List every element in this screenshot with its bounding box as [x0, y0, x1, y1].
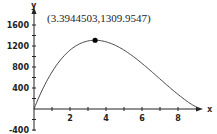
y-ticks: 16001200800400-400 — [7, 21, 36, 134]
x-tick-label: 8 — [175, 114, 181, 123]
y-tick-label: 400 — [12, 84, 29, 93]
x-tick-label: 4 — [103, 114, 109, 123]
y-tick-label: 1200 — [7, 42, 30, 51]
y-tick-label: 800 — [12, 63, 29, 72]
x-tick-label: 2 — [67, 114, 73, 123]
y-tick-label: 1600 — [7, 21, 30, 30]
chart: y 16001200800400-400 x 2468 (3.3944503,1… — [0, 0, 217, 134]
y-tick-label: -400 — [9, 126, 29, 134]
x-axis: x 2468 — [34, 104, 213, 123]
y-axis: y 16001200800400-400 — [7, 0, 37, 134]
max-point-annotation: (3.3944503,1309.9547) — [47, 12, 151, 25]
x-axis-label: x — [207, 104, 213, 114]
data-curve — [34, 40, 200, 109]
x-tick-label: 6 — [139, 114, 145, 123]
max-point-marker — [93, 38, 98, 43]
y-axis-label: y — [31, 0, 37, 10]
